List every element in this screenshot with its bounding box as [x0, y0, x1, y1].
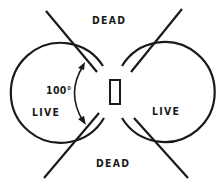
right-live-lobe: [122, 42, 215, 142]
angle-arc-arrow: [75, 66, 84, 121]
label-dead-top: DEAD: [92, 14, 126, 27]
boundary-line-top-right: [131, 9, 182, 72]
label-live-right: LIVE: [152, 105, 180, 118]
boundary-line-bottom-right: [134, 118, 188, 178]
label-live-left: LIVE: [32, 106, 60, 119]
boundary-line-top-left: [46, 11, 97, 72]
label-angle: 100°: [46, 84, 72, 97]
polar-pattern-diagram: DEAD DEAD 100° LIVE LIVE: [0, 0, 218, 185]
arrowhead-top-icon: [78, 62, 85, 70]
center-element-rect: [110, 80, 120, 104]
arrowhead-bottom-icon: [78, 116, 86, 125]
boundary-line-bottom-left: [44, 113, 99, 178]
label-dead-bottom: DEAD: [96, 157, 130, 170]
